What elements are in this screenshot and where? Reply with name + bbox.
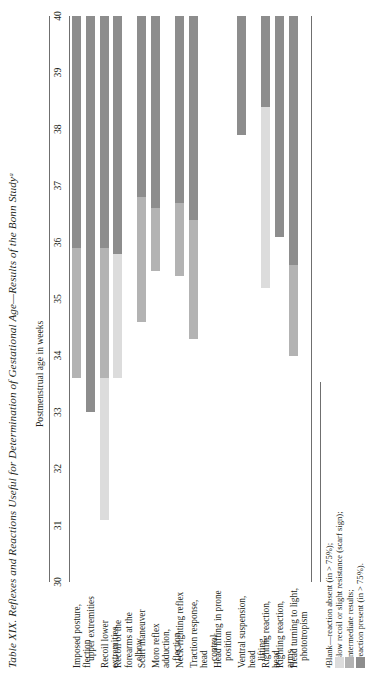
week-tick-38: 38 <box>52 114 63 144</box>
week-tick-36: 36 <box>52 227 63 257</box>
week-tick-37: 37 <box>52 171 63 201</box>
table-number: Table XIX. <box>6 620 18 668</box>
reflex-rows: Imposed posture, flectionupper extremiti… <box>72 0 313 674</box>
reflex-bar-segment <box>151 16 160 208</box>
footnote-line: —slow recoil or slight resistance (scarf… <box>334 378 344 668</box>
reflex-bar-segment <box>151 208 160 270</box>
reflex-row-label-line: Head turning to light, <box>289 586 299 668</box>
reflex-row: Head turning to light,phototropism <box>289 0 313 674</box>
footnote-line: —reaction present (in > 75%). <box>355 378 365 668</box>
axis-caption: Postmenstrual age in weeks <box>34 321 45 427</box>
week-tick-31: 31 <box>52 510 63 540</box>
week-tick-40: 40 <box>52 1 63 31</box>
reflex-bar-track <box>86 16 100 582</box>
reflex-bar-track <box>289 16 313 582</box>
rotated-figure-wrapper: Table XIX. Reflexes and Reactions Useful… <box>0 0 371 674</box>
week-tick-30: 30 <box>52 567 63 597</box>
reflex-row: upper extremities <box>86 0 100 674</box>
reflex-row-label-line: Ventral suspension, head <box>237 586 257 668</box>
reflex-bar-segment <box>189 16 198 220</box>
reflex-bar-segment <box>72 16 81 248</box>
week-tick-35: 35 <box>52 284 63 314</box>
reflex-row: Imposed posture, flection <box>72 0 86 674</box>
reflex-bar-segment <box>289 265 298 356</box>
reflex-bar-segment <box>72 248 81 378</box>
rule-header <box>69 16 70 582</box>
reflex-bar-segment <box>137 197 146 322</box>
reflex-bar-segment <box>261 107 270 288</box>
reflex-bar-track <box>72 16 86 582</box>
reflex-bar-segment <box>237 16 246 135</box>
reflex-bar-segment <box>100 378 109 520</box>
reflex-row-label-line: Recoil of the forearms at the <box>113 586 133 668</box>
reflex-bar-segment <box>86 16 95 412</box>
reflex-row: Neck-righting reflex <box>175 0 189 674</box>
reflex-bar-segment <box>275 16 284 237</box>
reflex-bar-track <box>213 16 237 582</box>
footnote-line: ᵃBlank—reaction absent (in > 75%); <box>324 378 334 668</box>
reflex-bar-track <box>151 16 175 582</box>
reflex-row-label: Scarf maneuver <box>137 586 147 668</box>
legend-swatch-light <box>335 657 344 668</box>
reflex-row: Recoil of the forearms at theelbow <box>113 0 137 674</box>
week-tick-34: 34 <box>52 341 63 371</box>
reflex-bar-track <box>113 16 137 582</box>
reflex-bar-segment <box>189 220 198 339</box>
reflex-row-label-line: Neck-righting reflex <box>175 586 185 668</box>
reflex-bar-segment <box>100 16 109 248</box>
reflex-row: Ventral suspension, headlifting <box>237 0 261 674</box>
reflex-row: Moro reflex adduction,flection <box>151 0 175 674</box>
reflex-bar-track <box>275 16 289 582</box>
reflex-row-label: upper extremities <box>86 586 96 668</box>
reflex-row-label-line: Head lifting in prone <box>213 586 223 668</box>
week-tick-39: 39 <box>52 58 63 88</box>
reflex-row-label-line: phototropism <box>299 586 309 668</box>
reflex-bar-segment <box>175 203 184 277</box>
reflex-bar-track <box>237 16 261 582</box>
reflex-bar-segment <box>100 248 109 378</box>
reflex-bar-segment <box>113 16 122 254</box>
reflex-row-label: Head turning to light,phototropism <box>289 586 309 668</box>
reflex-row: Righting reaction, head <box>261 0 275 674</box>
reflex-bar-segment <box>289 16 298 265</box>
footnote-line: —intermediate results; <box>345 378 355 668</box>
reflex-bar-track <box>100 16 114 582</box>
reflex-bar-track <box>175 16 189 582</box>
reflex-row-label-line: upper extremities <box>86 586 96 668</box>
reflex-bar-segment <box>175 16 184 203</box>
reflex-bar-segment <box>261 16 270 107</box>
table-title: Reflexes and Reactions Useful for Determ… <box>6 172 18 616</box>
week-tick-labels: 3031323334353637383940 <box>52 16 68 582</box>
reflex-bar-track <box>137 16 151 582</box>
figure-root: Table XIX. Reflexes and Reactions Useful… <box>0 0 371 674</box>
reflex-row: Recoil lower extremities <box>100 0 114 674</box>
figure-title: Table XIX. Reflexes and Reactions Useful… <box>6 172 18 668</box>
rule-top <box>49 16 50 582</box>
footnote-text: ᵃBlank—reaction absent (in > 75%);—slow … <box>324 378 366 668</box>
reflex-bar-segment <box>137 16 146 197</box>
reflex-row: Head lifting in proneposition <box>213 0 237 674</box>
reflex-bar-track <box>261 16 275 582</box>
week-tick-32: 32 <box>52 454 63 484</box>
reflex-row-label-line: Moro reflex adduction, <box>151 586 171 668</box>
rule-footnote <box>320 382 321 582</box>
reflex-row-label: Neck-righting reflex <box>175 586 185 668</box>
week-tick-33: 33 <box>52 397 63 427</box>
reflex-row-label-line: Scarf maneuver <box>137 586 147 668</box>
reflex-row-label: Head lifting in proneposition <box>213 586 233 668</box>
legend-swatch-dark <box>356 657 365 668</box>
reflex-row-label-line: position <box>223 586 233 668</box>
legend-swatch-mid <box>345 657 354 668</box>
reflex-row: Scarf maneuver <box>137 0 151 674</box>
reflex-row: Righting reaction, arms <box>275 0 289 674</box>
reflex-row: Traction response, headcontrol <box>189 0 213 674</box>
reflex-bar-track <box>189 16 213 582</box>
reflex-bar-segment <box>113 254 122 379</box>
reflex-row-label-line: Traction response, head <box>189 586 209 668</box>
